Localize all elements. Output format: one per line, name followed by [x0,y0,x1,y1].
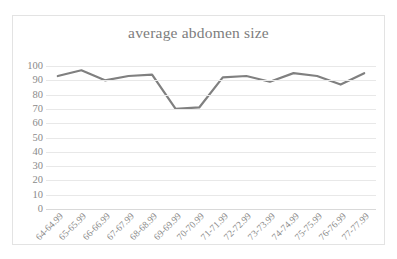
y-axis-tick-label: 70 [9,104,43,115]
y-axis-tick-label: 80 [9,89,43,100]
y-axis-tick-label: 40 [9,147,43,158]
gridline [46,166,376,167]
y-axis-tick-label: 0 [9,204,43,215]
gridline [46,109,376,110]
gridline [46,123,376,124]
series-polyline [58,70,364,109]
gridline [46,195,376,196]
gridline [46,95,376,96]
y-axis-tick-label: 50 [9,132,43,143]
chart-title: average abdomen size [13,24,384,42]
x-axis: 64-64.9965-65.9966-66.9967-67.9968-68.99… [46,211,376,259]
y-axis-tick-label: 20 [9,175,43,186]
y-axis-tick-label: 10 [9,189,43,200]
y-axis: 1009080706050403020100 [13,66,43,209]
y-axis-tick-label: 60 [9,118,43,129]
plot-area [46,66,376,209]
gridline [46,152,376,153]
gridline [46,138,376,139]
gridline [46,66,376,67]
x-axis-line [46,209,376,210]
y-axis-tick-label: 30 [9,161,43,172]
y-axis-tick-label: 100 [9,61,43,72]
gridline [46,180,376,181]
chart-container: average abdomen size 1009080706050403020… [12,15,385,245]
y-axis-tick-label: 90 [9,75,43,86]
gridline [46,80,376,81]
